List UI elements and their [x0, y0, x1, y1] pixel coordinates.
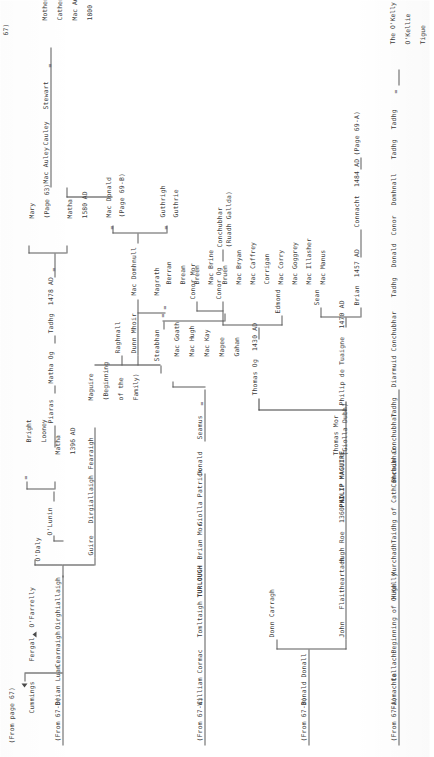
- col-d-cummings-rule: [24, 673, 25, 681]
- col-c-desc-0: Mac Goath: [172, 321, 180, 356]
- col-b-page69a: (Page 69-A): [353, 110, 361, 155]
- col-d-brian-luan: Brian Luan: [54, 665, 62, 705]
- col-d-page69b: (Page 69-B): [118, 172, 126, 217]
- col-d-rule: [62, 575, 63, 745]
- surname-11: Mac Manus: [318, 249, 326, 284]
- col-b-connacht: Connacht 1484 AD: [353, 158, 361, 227]
- col-d-mother-0: Mother: [40, 0, 48, 20]
- col-d-macd-split: [112, 232, 166, 233]
- col-d-mary-rule: [28, 245, 29, 253]
- surname-0: Berran: [164, 261, 172, 284]
- col-a-item-9: Diarmuid: [390, 355, 398, 387]
- col-d-oirghiallaigh: Oirghiallaigh: [54, 576, 62, 629]
- col-a-item-4: Murchadh: [390, 543, 398, 575]
- col-d-matha-top: [26, 481, 27, 489]
- col-d-tadhg-rule: [54, 335, 55, 343]
- col-d-matha-og: Matha Og: [47, 351, 55, 383]
- col-d-maguire-descend: [94, 364, 160, 365]
- col-d-matha1580-rule: [66, 245, 67, 253]
- surname-3: Mac Brine: [206, 249, 214, 284]
- col-d-magrath-bracket: [137, 312, 165, 313]
- col-b-edmond-rule: [281, 315, 282, 325]
- col-c-desc-1: Mac Hugh: [187, 325, 195, 356]
- col-a-terminal: The O'Kelly O'Kellie Tigue: [382, 2, 434, 67]
- col-a-item-15: Tadhg: [390, 139, 398, 159]
- col-d-matha-1580-year: 1580 AD: [80, 191, 88, 218]
- col-d-maguire-0: Maguire: [86, 373, 94, 400]
- col-d-tadhg-rule2: [54, 253, 55, 277]
- surname-7: Corrigan: [262, 253, 270, 284]
- col-d-fergal: Fergal: [28, 637, 36, 661]
- col-d-piaras-rule: [54, 425, 55, 447]
- col-d-olunin-label: O'Lunin: [46, 507, 54, 535]
- col-a-rule: [398, 389, 399, 745]
- col-d-macauley-stem: [66, 196, 112, 197]
- col-b-john: John: [338, 621, 346, 637]
- col-c-marriage: =: [198, 401, 204, 405]
- col-d-cearnaigh: Cearnaigh: [54, 631, 62, 667]
- col-c-rule2: [204, 389, 205, 441]
- col-d-mac-auley: Mac Auley: [42, 147, 50, 183]
- col-d-surnames-bracket: [162, 320, 224, 321]
- col-d-mac-domhnull-rule: [137, 299, 138, 313]
- col-d-mother: Mother Catherine Mac Auley 1800: [34, 0, 101, 43]
- col-d-dunn-mhoir: Dunn Mhoir: [130, 313, 138, 353]
- col-d-steabhan: Steabhan: [153, 329, 161, 361]
- col-d-magrath: Magrath: [153, 267, 161, 295]
- col-a-item-13: Conor: [390, 215, 398, 235]
- col-d-mother-eq: =: [46, 63, 52, 67]
- col-b-john-rule: [345, 411, 346, 639]
- surname-8: Mac Corry: [276, 249, 284, 284]
- col-b-flaitheartach: Flaitheartach: [338, 556, 346, 609]
- surname-5: Mac Bryan: [234, 249, 242, 284]
- col-b-brian: Brian 1457 AD: [353, 248, 361, 305]
- col-d-bright: Bright: [24, 419, 32, 442]
- col-b-connacht-rule: [360, 157, 361, 169]
- col-d-maguire: Maguire (Beginning of the Family): [80, 361, 147, 423]
- col-a-item-16: Tadhg: [390, 109, 398, 129]
- col-d-ofarrelly: O'Farrelly: [28, 587, 36, 627]
- col-a-item-8: Tadhg: [390, 397, 398, 417]
- col-d-cauley: Cauley: [42, 121, 50, 145]
- col-b-philip-split: [258, 409, 346, 410]
- col-d-macauley-rule: [66, 187, 67, 197]
- col-d-surnames-rule: [224, 313, 225, 321]
- col-a-marriage: =: [392, 89, 398, 93]
- col-d-guthrigh: Guthrigh: [159, 185, 167, 217]
- col-d-odaly-rule: [62, 565, 63, 577]
- col-c-desc-2: Mac Kay: [202, 329, 210, 356]
- surname-2: Breen: [192, 265, 200, 284]
- col-d-odaly: O'Daly: [34, 537, 42, 561]
- col-d-matha-1580: Matha 1580 AD: [59, 191, 96, 241]
- col-d-odaly-bracket: [34, 564, 62, 565]
- col-d-mother-2: Mac Auley: [70, 0, 78, 20]
- col-a-item-14: Domhnall: [390, 173, 398, 205]
- col-c-item-2: Tomltaigh: [196, 601, 204, 637]
- col-d-raghnall: Raghnall: [114, 321, 122, 353]
- col-c-item-3: TURLOUGH: [196, 565, 204, 597]
- col-d-mother-3: 1800: [85, 5, 93, 20]
- col-d-fearaigh: Fearaigh: [87, 437, 95, 469]
- col-d-stewart: Stewart: [42, 81, 50, 109]
- col-d-matha-eq: =: [22, 475, 28, 479]
- col-c-desc-4: Gahan: [232, 337, 240, 356]
- col-a-terminal-rule: [398, 69, 399, 85]
- col-d-maguire-3: Family): [131, 373, 139, 400]
- col-d-magrath-stem: [137, 313, 138, 355]
- col-d-mary-name: Mary: [27, 203, 35, 218]
- page-header: (From page 67): [8, 686, 16, 743]
- col-b-split: [276, 648, 346, 649]
- col-b-thomas-og-rule: [258, 327, 259, 339]
- col-d-fergal-bracket: [24, 672, 62, 673]
- col-d-matha-1396-year: 1396 AD: [68, 427, 76, 454]
- col-d-guire-line: [94, 427, 95, 557]
- col-d-maguire-2: of the: [116, 377, 124, 400]
- col-d-guthrie-eq: =: [162, 225, 168, 229]
- col-b-brian-sean-stem: [345, 317, 346, 327]
- col-c-item-0: William: [196, 677, 204, 705]
- col-b-thomas-og: Thomas Og 1430 AD: [251, 322, 259, 395]
- col-b-conor-split: [196, 310, 223, 311]
- col-d-olunin-rule2: [53, 491, 54, 501]
- col-a-terminal-0: The O'Kelly: [388, 2, 396, 44]
